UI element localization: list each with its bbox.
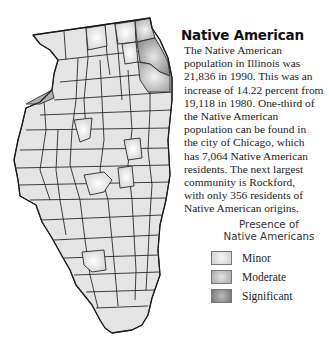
description-line: with only 356 residents of	[184, 189, 329, 202]
county-minor-kane	[122, 42, 138, 64]
description-line: the Native American	[184, 110, 329, 123]
description-line: 21,836 in 1990. This was an	[184, 70, 329, 83]
county-minor-winnebago	[115, 21, 136, 44]
legend-swatch-minor	[211, 251, 232, 265]
county-minor-jodaviess	[86, 25, 107, 50]
description-line: the city of Chicago, which	[184, 136, 329, 149]
legend-title: Presence of Native Americans	[213, 219, 325, 242]
description-line: has 7,064 Native American	[184, 150, 329, 163]
description-line: population can be found in	[184, 123, 329, 136]
description-line: Native American origins.	[184, 202, 329, 215]
legend-title-line: Native Americans	[213, 231, 325, 243]
description-line: increase of 14.22 percent from	[184, 84, 329, 97]
legend-label: Minor	[242, 252, 271, 264]
legend-swatch-moderate	[211, 270, 232, 284]
legend-label: Moderate	[242, 271, 286, 283]
county-minor-macon	[118, 166, 134, 188]
description-line: community is Rockford,	[184, 176, 329, 189]
legend-item-moderate: Moderate	[211, 268, 286, 285]
legend-item-significant: Significant	[211, 287, 292, 304]
legend-title-line: Presence of	[213, 219, 325, 231]
legend-item-minor: Minor	[211, 249, 271, 266]
description-line: population in Illinois was	[184, 57, 329, 70]
description-line: residents. The next largest	[184, 163, 329, 176]
description-line: The Native American	[184, 44, 329, 57]
map-title: Native American	[181, 27, 304, 43]
description-line: 19,118 in 1980. One-third of	[184, 97, 329, 110]
legend-swatch-significant	[211, 289, 232, 303]
description-text: The Native American population in Illino…	[184, 44, 329, 216]
legend-label: Significant	[242, 290, 292, 302]
